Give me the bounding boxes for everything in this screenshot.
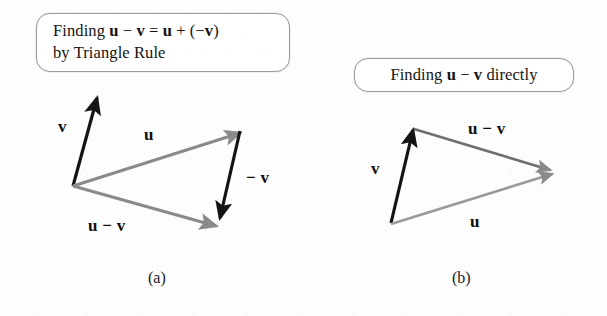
caption-panel-a: (a)	[148, 269, 166, 287]
panel-a-label-u: u	[144, 125, 154, 145]
vector-neg-v-a	[220, 131, 240, 218]
callout-box-direct: Finding u − v directly	[354, 58, 574, 92]
panel-a-label-u-minus-v: u − v	[88, 216, 126, 236]
callout-b-text: Finding u − v directly	[390, 64, 537, 85]
caption-panel-b: (b)	[452, 269, 471, 287]
vector-v-a	[73, 98, 97, 186]
panel-a-label-v: v	[58, 117, 67, 137]
panel-a-label-negative-v: − v	[246, 168, 269, 188]
vector-u-a	[73, 133, 240, 186]
panel-b-label-u-minus-v: u − v	[468, 119, 506, 139]
panel-b-label-v: v	[371, 159, 380, 179]
callout-a-text: Finding u − v = u + (−v)by Triangle Rule	[53, 20, 219, 62]
vector-v-b	[391, 130, 413, 223]
panel-a-vectors	[73, 98, 240, 226]
vector-subtraction-figure: Finding u − v = u + (−v)by Triangle Rule…	[0, 0, 607, 316]
callout-box-triangle-rule: Finding u − v = u + (−v)by Triangle Rule	[36, 13, 290, 72]
panel-b-vectors	[391, 129, 552, 224]
panel-b-label-u: u	[470, 212, 480, 232]
